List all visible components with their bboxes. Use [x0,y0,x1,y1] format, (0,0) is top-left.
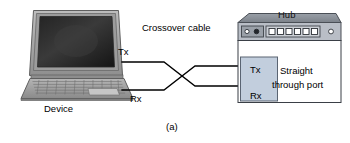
hub-led-1 [245,29,249,33]
label-hub-title: Hub [278,10,295,20]
laptop-front-lip [21,99,133,101]
hub-port-1[interactable] [269,29,275,35]
label-device: Device [44,104,73,114]
hub-port-6[interactable] [312,29,318,35]
hub-port-2[interactable] [278,29,284,35]
screen-glow [54,25,98,57]
label-rx-device: Rx [130,94,142,104]
laptop-hinge [31,75,123,79]
laptop-trackpad [88,89,120,96]
hub-led-2 [254,29,259,34]
label-straight-through-port-line2: through port [272,80,323,90]
label-crossover-cable: Crossover cable [142,23,211,33]
laptop-base [21,79,133,101]
hub-port-3[interactable] [286,29,292,35]
laptop-lid [30,11,123,76]
crossover-cable [122,62,243,90]
hub-port-4[interactable] [295,29,301,35]
hub-aux-port[interactable] [329,29,334,34]
label-tx-device: Tx [118,47,129,57]
hub-port-5[interactable] [303,29,309,35]
laptop-device [21,11,133,101]
label-rx-hub: Rx [250,91,262,101]
label-straight-through-port-line1: Straight [280,66,313,76]
label-tx-hub: Tx [250,65,261,75]
figure-caption: (a) [166,122,178,132]
crossover-cable-diagram: Device Tx Rx Crossover cable Hub Tx Rx S… [0,0,350,143]
